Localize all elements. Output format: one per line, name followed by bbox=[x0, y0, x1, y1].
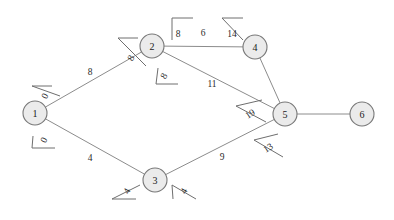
node-label-1: 1 bbox=[33, 108, 38, 119]
node-label-3: 3 bbox=[153, 175, 158, 186]
edge-weight-3-5: 9 bbox=[220, 152, 225, 162]
node-label-6: 6 bbox=[360, 109, 365, 120]
node-5[interactable]: 5 bbox=[273, 102, 297, 126]
distance-label-1-toward-3: 0 bbox=[38, 135, 49, 144]
edge-weight-1-2: 8 bbox=[88, 67, 93, 77]
nodes-layer: 123456 bbox=[23, 34, 374, 192]
edge-3-5 bbox=[166, 119, 275, 174]
node-label-4: 4 bbox=[253, 42, 258, 53]
node-3[interactable]: 3 bbox=[143, 168, 167, 192]
node-6[interactable]: 6 bbox=[350, 102, 374, 126]
distance-label-3-toward-5: 4 bbox=[178, 186, 189, 195]
distance-label-5-toward-2: 19 bbox=[243, 107, 257, 121]
distance-label-4-toward-2: 14 bbox=[227, 29, 237, 39]
distance-label-3-toward-1: 4 bbox=[121, 186, 132, 195]
edge-weight-2-5: 11 bbox=[207, 79, 216, 89]
edge-2-5 bbox=[163, 51, 275, 108]
graph-diagram-canvas: 846119 0088814441913 123456 bbox=[0, 0, 394, 220]
distance-label-2-toward-5: 8 bbox=[158, 71, 169, 80]
edge-4-5 bbox=[260, 58, 280, 103]
edge-2-4 bbox=[164, 46, 243, 47]
distance-label-5-toward-3: 13 bbox=[261, 141, 275, 155]
node-2[interactable]: 2 bbox=[140, 34, 164, 58]
edge-1-2 bbox=[45, 52, 141, 107]
graph-svg: 846119 0088814441913 123456 bbox=[0, 0, 394, 220]
distance-label-1-toward-2: 0 bbox=[39, 91, 50, 100]
edge-weight-2-4: 6 bbox=[201, 28, 206, 38]
node-4[interactable]: 4 bbox=[243, 35, 267, 59]
node-1[interactable]: 1 bbox=[23, 101, 47, 125]
node-label-5: 5 bbox=[283, 109, 288, 120]
node-label-2: 2 bbox=[150, 41, 155, 52]
edge-1-3 bbox=[45, 119, 144, 174]
edge-weight-1-3: 4 bbox=[88, 153, 93, 163]
distance-label-2-toward-4: 8 bbox=[176, 29, 181, 39]
